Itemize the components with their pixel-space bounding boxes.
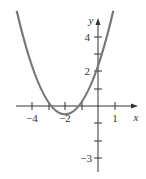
y-axis-label: y [88,14,94,26]
y-tick-label-4: 4 [85,31,91,43]
x-tick-label-1: 1 [112,112,118,124]
x-axis-arrow-icon [131,104,138,109]
x-tick-label-neg2: −2 [59,112,71,124]
x-axis-label: x [133,111,139,123]
parabola-curve [17,11,114,115]
y-axis-arrow-icon [96,18,101,25]
y-tick-label-2: 2 [85,65,91,77]
parabola-chart: −4 −2 1 x 4 2 −3 y [0,0,146,179]
x-tick-label-neg4: −4 [26,112,38,124]
y-tick-label-neg3: −3 [80,152,92,164]
